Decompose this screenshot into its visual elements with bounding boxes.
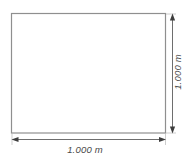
rectangle-shape <box>12 14 166 134</box>
bottom-dimension-label: 1.000 m <box>0 145 170 155</box>
horizontal-arrow-left-icon <box>12 137 19 142</box>
dimension-drawing <box>0 0 196 161</box>
vertical-arrow-up-icon <box>170 14 175 21</box>
horizontal-arrow-right-icon <box>159 137 166 142</box>
vertical-arrow-down-icon <box>170 127 175 134</box>
right-dimension-label: 1.000 m <box>173 54 183 90</box>
figure-canvas: 1.000 m 1.000 m <box>0 0 196 161</box>
